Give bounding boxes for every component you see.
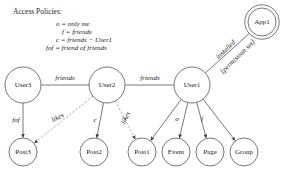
node-page[interactable]: Page bbox=[196, 138, 224, 166]
node-user2[interactable]: User2 bbox=[89, 67, 125, 103]
node-group[interactable]: Group bbox=[230, 138, 258, 166]
node-post3[interactable]: Post3 bbox=[9, 138, 37, 166]
node-layer: App1User3User2User1Post3Post2Post1EventP… bbox=[0, 0, 287, 179]
node-label-post3: Post3 bbox=[15, 148, 31, 156]
node-user3[interactable]: User3 bbox=[5, 67, 41, 103]
node-post2[interactable]: Post2 bbox=[80, 138, 108, 166]
node-label-post2: Post2 bbox=[86, 148, 102, 156]
diagram-canvas: Access Policies: o = only me f = friends… bbox=[0, 0, 287, 179]
node-post1[interactable]: Post1 bbox=[128, 138, 156, 166]
node-label-page: Page bbox=[203, 148, 217, 156]
node-user1[interactable]: User1 bbox=[174, 67, 210, 103]
node-label-user2: User2 bbox=[99, 81, 116, 89]
node-label-event: Event bbox=[168, 148, 184, 156]
node-app1[interactable]: App1 bbox=[245, 5, 279, 39]
node-label-user3: User3 bbox=[15, 81, 32, 89]
node-label-app1: App1 bbox=[254, 18, 270, 26]
nodes-group: App1User3User2User1Post3Post2Post1EventP… bbox=[5, 5, 279, 166]
node-event[interactable]: Event bbox=[162, 138, 190, 166]
node-label-group: Group bbox=[235, 148, 253, 156]
node-label-post1: Post1 bbox=[134, 148, 150, 156]
node-label-user1: User1 bbox=[184, 81, 201, 89]
